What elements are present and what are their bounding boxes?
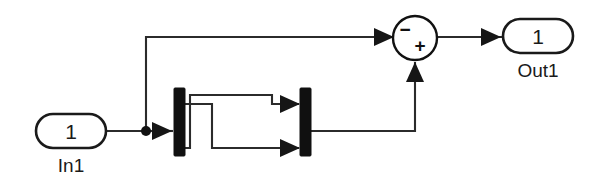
wire-mux-to-sum-plus [311, 63, 415, 131]
inport-label: In1 [58, 155, 84, 176]
arrowhead-sum-plus-input [406, 62, 424, 82]
demux-block[interactable] [174, 88, 185, 156]
sum-plus-sign: + [414, 35, 425, 56]
block-diagram-canvas: − + 1 In1 1 Out1 [0, 0, 591, 186]
arrowhead-mux-input-1 [280, 95, 300, 113]
arrowhead-sum-minus-input [374, 28, 394, 46]
arrowhead-outport-input [481, 28, 501, 46]
sum-minus-sign: − [399, 19, 410, 40]
mux-block[interactable] [300, 88, 311, 156]
arrowhead-mux-input-2 [280, 139, 300, 157]
inport-number: 1 [65, 120, 77, 143]
branch-point-dot [141, 126, 151, 136]
outport-label: Out1 [517, 60, 558, 81]
outport-number: 1 [532, 25, 544, 48]
arrowhead-demux-input [152, 122, 172, 140]
diagram-svg: − + 1 In1 1 Out1 [0, 0, 591, 186]
